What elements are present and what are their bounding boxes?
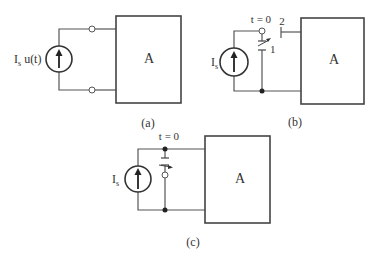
junction-dot-icon (163, 147, 168, 152)
wire-b-top (234, 31, 259, 48)
switch-pos-1-label: 1 (270, 43, 276, 55)
wire-c-top (138, 149, 205, 166)
block-label-a: A (144, 51, 155, 66)
wire-a-bottom-left (59, 72, 89, 90)
caption-a: (a) (141, 116, 154, 130)
current-source-icon (125, 166, 151, 192)
switch-time-label-b: t = 0 (251, 13, 272, 25)
caption-b: (b) (288, 115, 302, 129)
switch-icon (159, 158, 173, 172)
panel-c: t = 0 Is A (c) (112, 130, 270, 249)
switch-pivot-icon (162, 172, 168, 178)
caption-c: (c) (186, 235, 199, 249)
wire-a-top-left (59, 29, 89, 46)
switch-time-label-c: t = 0 (159, 130, 180, 142)
current-source-icon (46, 46, 72, 72)
source-label-c: Is (112, 172, 119, 188)
terminal-icon (89, 87, 95, 93)
junction-dot-icon (163, 208, 168, 213)
junction-dot-icon (260, 89, 265, 94)
panel-a: Is u(t) A (a) (14, 16, 181, 130)
block-label-b: A (329, 52, 340, 67)
switch-pos-2-label: 2 (279, 15, 285, 27)
wire-b-bottom (234, 76, 301, 91)
circuit-diagram: Is u(t) A (a) 2 1 t = 0 Is (0, 0, 374, 260)
panel-b: 2 1 t = 0 Is A (b) (211, 13, 364, 129)
switch-pivot-icon (259, 28, 265, 34)
current-source-icon (220, 48, 248, 76)
wire-c-bottom (138, 192, 205, 210)
source-label-a: Is u(t) (14, 52, 41, 68)
source-label-b: Is (211, 55, 218, 71)
terminal-icon (89, 26, 95, 32)
block-label-c: A (235, 171, 246, 186)
